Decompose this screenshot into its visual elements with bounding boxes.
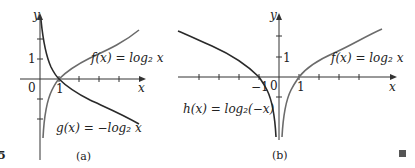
curve-g-label: g(x) = −log₂ x	[56, 121, 142, 135]
curve-g	[41, 20, 139, 124]
origin-label: 0	[28, 81, 36, 95]
x-tick-label-neg1: −1	[251, 80, 269, 94]
y-axis-label: y	[269, 8, 277, 22]
panel-b-caption: (b)	[272, 149, 288, 162]
panel-a: y x 0 1 1 f(x) = log₂ x g(x) = −log₂ x (…	[20, 8, 164, 163]
y-axis-label: y	[32, 8, 40, 22]
x-tick-label-1: 1	[56, 82, 64, 96]
curve-f-label: f(x) = log₂ x	[330, 51, 404, 65]
figure-canvas: y x 0 1 1 f(x) = log₂ x g(x) = −log₂ x (…	[0, 0, 415, 168]
x-axis-label: x	[138, 81, 145, 95]
figure-number-fragment: 5	[0, 149, 6, 162]
y-tick-label-1: 1	[283, 51, 291, 65]
x-tick-label-1: 1	[297, 80, 305, 94]
y-axis-arrow-icon	[276, 13, 282, 20]
curve-f-label: f(x) = log₂ x	[90, 51, 164, 65]
panel-a-caption: (a)	[76, 150, 91, 163]
x-axis-label: x	[389, 80, 396, 94]
end-mark-icon	[399, 150, 406, 157]
y-tick-label-1: 1	[28, 52, 36, 66]
panel-b: y x 0 1 −1 1 f(x) = log₂ x h(x) = log₂(−…	[178, 8, 404, 162]
curve-h-label: h(x) = log₂(−x)	[183, 102, 275, 116]
origin-label: 0	[270, 79, 278, 93]
